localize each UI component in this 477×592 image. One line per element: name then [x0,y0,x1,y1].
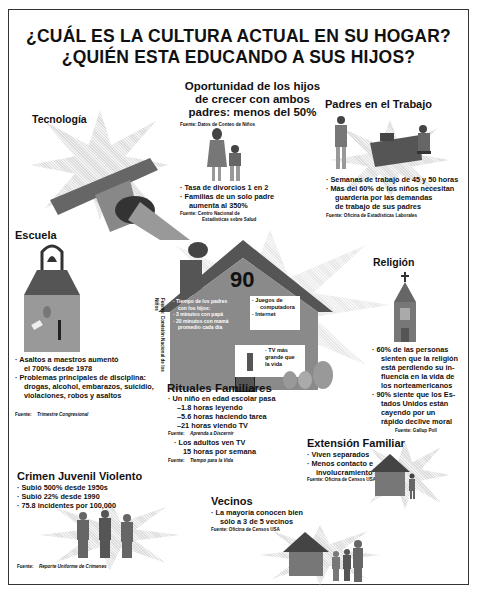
bullet-cont: los norteamericanos [372,381,458,390]
rituales-heading: Rituales Familiares [167,381,272,395]
bullet-cont: cayendo por un [372,408,458,417]
vecinos-bullets: · La mayoría conocen bien sólo a 3 de 5 … [211,508,303,526]
bullet: · La mayoría conocen bien [211,508,303,517]
vecinos-heading: Vecinos [211,494,253,508]
text-line: · Juegos de [252,297,298,304]
family-icon [330,540,366,582]
sub-bullet: –21 horas viendo TV [168,421,275,430]
bullet: · 60% de las personas [372,345,458,354]
office-workers-icon [330,115,450,175]
bullet-cont: drogas, alcohol, embarazos, suicidio, [15,382,154,391]
rituales-bullet2: · Los adultos ven TV 15 horas por semana [174,438,256,456]
church-icon [390,272,420,342]
house-vertical-source: Fuente: Comisión Nacional de los Niños [153,298,165,373]
rituales-source2: Fuente: Tiempo para la Vida [168,458,233,464]
juegos-box: · Juegos de computadora · Internet [250,296,300,330]
source-label: Fuente: [15,412,32,417]
religion-bullets: · 60% de las personas sienten que la rel… [372,345,458,426]
page-title-line1: ¿CUÁL ES LA CULTURA ACTUAL EN SU HOGAR? [0,25,477,47]
padres-trabajo-bullets: · Semanas de trabajo de 45 y 50 horas · … [326,175,458,211]
bullet: · 75.8 incidentes por 100,000 [17,501,116,510]
sub-bullet: –1.8 horas leyendo [168,403,275,412]
sub-bullet: –5.6 horas haciendo tarea [168,412,275,421]
source-label: Fuente: [168,431,185,436]
escuela-source: Fuente: Trimestre Congresional [15,412,88,418]
bullet-cont: fluencia en la vida de [372,372,458,381]
bullet: · Un niño en edad escolar pasa [168,394,275,403]
crimen-heading: Crimen Juvenil Violento [17,469,142,483]
heading-line: Oportunidad de los hijos [170,80,335,93]
crimen-source: Fuente: Reporte Uniforme de Crímenes [17,564,107,570]
rituales-source1: Fuente: Aprenda a Discernir [168,431,234,437]
bullet: · Problemas principales de disciplina: [15,373,154,382]
padres-trabajo-heading: Padres en el Trabajo [325,97,432,111]
crimen-bullets: · Subió 500% desde 1950s · Subió 22% des… [17,483,116,510]
satellite-icon [40,140,190,240]
source-label: Fuente: [17,564,34,569]
escuela-bullets: · Asaltos a maestros aumentó el 700% des… [15,355,154,400]
source-name: Tiempo para la Vida [190,458,233,463]
mother-child-icon [205,127,245,182]
oportunidad-heading: Oportunidad de los hijos de crecer con a… [170,80,335,119]
bullet: · Subió 500% desde 1950s [17,483,116,492]
bullet: · 90% siente que los Es- [372,390,458,399]
religion-source: Fuente: Gallup Poll [395,428,437,434]
bullet-cont: violaciones, robos y asaltos [15,391,154,400]
oportunidad-source-bottom: Fuente: Centro Nacional de Estadísticas … [180,211,256,223]
padres-trabajo-source: Fuente: Oficina de Estadísticas Laborale… [326,213,417,219]
source-line: Estadísticas sobre Salud [180,217,256,223]
bullet-cont: de trabajo de sus padres [326,202,458,211]
text-line: · TV más [265,347,295,354]
source-line: Fuente: Comisión [160,298,165,337]
bullet-cont: el 700% desde 1978 [15,364,154,373]
tecnologia-heading: Tecnología [32,112,87,126]
text-line: promedio cada día [173,324,229,331]
bullet-cont: está perdiendo su in- [372,363,458,372]
tv-icon [247,353,253,371]
tiempo-padres-text: · Tiempo de los padres con los hijos: · … [173,298,229,331]
text-line: · 3 minutos con papá [173,311,229,318]
bullet-cont: aumenta al 350% [180,201,274,210]
school-bell-icon [22,240,82,352]
source-name: Reporte Uniforme de Crímenes [39,564,107,569]
small-house-icon [368,450,418,500]
bullet-cont: guardería por las demandas [326,193,458,202]
bullet-cont: tados Unidos están [372,399,458,408]
house-number: 90 [230,268,254,292]
text-line: computadora [252,304,298,311]
text-line: · Tiempo de los padres [173,298,229,305]
page-title-line2: ¿QUIÉN ESTA EDUCANDO A SUS HIJOS? [0,46,477,68]
source-name: Trimestre Congresional [37,412,88,417]
bullet-cont: sienten que la religión [372,354,458,363]
source-name: Aprenda a Discernir [190,431,234,436]
bullet-cont: rápido declive moral [372,417,458,426]
bullet: · Semanas de trabajo de 45 y 50 horas [326,175,458,184]
source-label: Fuente: [168,458,185,463]
vecinos-source: Fuente: Oficina de Censos USA [211,527,280,533]
bullet: · Más del 60% de los niños necesitan [326,184,458,193]
bullet-cont: sólo a 3 de 5 vecinos [211,517,303,526]
oportunidad-bullets: · Tasa de divorcios 1 en 2 · Familias de… [180,183,274,210]
bullet: · Tasa de divorcios 1 en 2 [180,183,274,192]
extension-bullets: · Viven separados · Menos contacto e inv… [307,450,373,477]
heading-line: padres: menos del 50% [170,106,335,119]
bullet: · Viven separados [307,450,373,459]
bullet-cont: involucramiento [307,468,373,477]
shrubs-icon [280,360,335,390]
bullet: · Menos contacto e [307,459,373,468]
bullet-cont: 15 horas por semana [174,447,256,456]
bullet: · Familias de un solo padre [180,192,274,201]
rituales-bullets: · Un niño en edad escolar pasa –1.8 hora… [168,394,275,430]
heading-line: de crecer con ambos [170,93,335,106]
extension-heading: Extensión Familiar [307,436,405,450]
bullet: · Subió 22% desde 1990 [17,492,116,501]
religion-heading: Religión [373,255,414,269]
bullet: · Asaltos a maestros aumentó [15,355,154,364]
extension-source: Fuente: Oficina de Censos USA [307,477,376,483]
bullet: · Los adultos ven TV [174,438,256,447]
text-line: · Internet [252,311,298,318]
youths-icon [65,510,145,560]
